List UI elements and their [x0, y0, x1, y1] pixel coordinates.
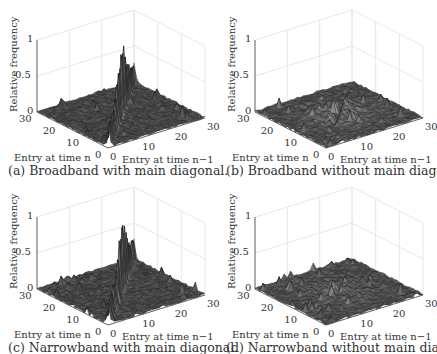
x-tick-label: 30 — [237, 114, 250, 124]
caption: (d) Narrowband without main diagonal. — [226, 340, 437, 354]
panel-d: 00.51Relative frequency01020300102030Ent… — [218, 177, 436, 354]
x-tick-label: 20 — [261, 303, 274, 313]
x-tick-label: 0 — [95, 327, 101, 337]
z-tick-label: 1 — [245, 34, 251, 44]
y-tick-label: 0 — [328, 152, 334, 162]
x-tick-label: 0 — [95, 150, 101, 160]
x-tick-label: 30 — [19, 291, 32, 301]
y-tick-label: 20 — [393, 132, 406, 142]
y-tick-label: 20 — [175, 309, 188, 319]
z-tick-label: 1 — [245, 211, 251, 221]
x-tick-label: 0 — [313, 150, 319, 160]
panel-c: 00.51Relative frequency01020300102030Ent… — [0, 177, 218, 354]
z-axis-label: Relative frequency — [226, 17, 237, 112]
y-tick-label: 0 — [110, 152, 116, 162]
y-tick-label: 10 — [142, 142, 155, 152]
panel-b: 00.51Relative frequency01020300102030Ent… — [218, 0, 436, 177]
y-tick-label: 20 — [175, 132, 188, 142]
y-tick-label: 10 — [360, 319, 373, 329]
z-axis-label: Relative frequency — [8, 17, 19, 112]
x-tick-label: 10 — [284, 138, 297, 148]
y-tick-label: 30 — [425, 299, 437, 309]
x-tick-label: 10 — [66, 315, 79, 325]
y-tick-label: 10 — [142, 319, 155, 329]
y-tick-label: 30 — [425, 122, 437, 132]
surface-plot — [0, 0, 218, 177]
x-tick-label: 20 — [43, 126, 56, 136]
caption: (c) Narrowband with main diagonal. — [8, 340, 238, 354]
z-axis-label: Relative frequency — [8, 194, 19, 289]
x-tick-label: 20 — [43, 303, 56, 313]
surface-plot — [218, 177, 436, 354]
x-tick-label: 10 — [284, 315, 297, 325]
y-tick-label: 20 — [393, 309, 406, 319]
x-axis-label: Entry at time n — [14, 153, 91, 163]
caption: (b) Broadband without main diagonal. — [226, 163, 437, 178]
y-tick-label: 0 — [328, 329, 334, 339]
y-tick-label: 10 — [360, 142, 373, 152]
surface-plot — [218, 0, 436, 177]
caption: (a) Broadband with main diagonal. — [8, 163, 228, 178]
z-tick-label: 1 — [27, 34, 33, 44]
panel-a: 00.51Relative frequency01020300102030Ent… — [0, 0, 218, 177]
x-tick-label: 0 — [313, 327, 319, 337]
x-tick-label: 20 — [261, 126, 274, 136]
x-tick-label: 10 — [66, 138, 79, 148]
x-tick-label: 30 — [237, 291, 250, 301]
z-tick-label: 1 — [27, 211, 33, 221]
z-axis-label: Relative frequency — [226, 194, 237, 289]
x-tick-label: 30 — [19, 114, 32, 124]
surface-plot — [0, 177, 218, 354]
y-tick-label: 0 — [110, 329, 116, 339]
x-axis-label: Entry at time n — [232, 330, 309, 340]
x-axis-label: Entry at time n — [14, 330, 91, 340]
x-axis-label: Entry at time n — [232, 153, 309, 163]
